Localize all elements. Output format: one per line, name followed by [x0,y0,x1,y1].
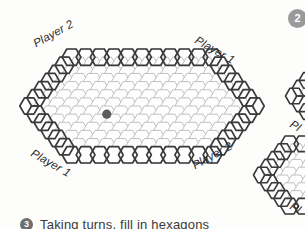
caption-step-bullet: 3 [20,218,33,230]
stone-layer [102,110,111,119]
side-hex-grid [254,73,306,214]
caption-text: Taking turns, fill in hexagons [40,217,209,230]
figure-caption: 3 Taking turns, fill in hexagons [20,216,209,229]
placed-stone[interactable] [102,110,111,119]
scanned-page: 2 Player 2 Player 1 Player 1 Player 2 Pl… [0,0,305,229]
